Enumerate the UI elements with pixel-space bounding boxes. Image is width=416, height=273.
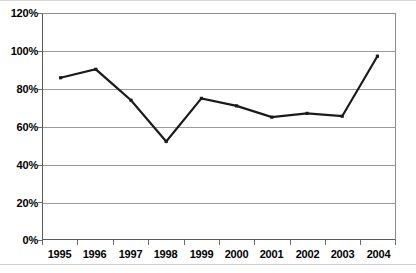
data-point-marker bbox=[94, 68, 97, 71]
data-point-marker bbox=[270, 116, 273, 119]
x-axis-tick-mark bbox=[325, 240, 326, 245]
plot-area bbox=[42, 13, 396, 240]
y-axis-tick-label: 0% bbox=[0, 235, 38, 246]
x-axis-tick-mark bbox=[254, 240, 255, 245]
x-axis-tick-mark bbox=[360, 240, 361, 245]
image-top-edge-line bbox=[0, 0, 416, 1]
y-axis-tick-label: 100% bbox=[0, 46, 38, 57]
y-axis-tick-label: 120% bbox=[0, 8, 38, 19]
x-axis-tick-mark bbox=[395, 240, 396, 245]
x-axis-tick-mark bbox=[290, 240, 291, 245]
y-axis-labels: 120% 100% 80% 60% 40% 20% 0% bbox=[0, 0, 38, 273]
data-point-marker bbox=[165, 140, 168, 143]
y-axis-tick-label: 40% bbox=[0, 160, 38, 171]
data-point-marker bbox=[341, 115, 344, 118]
y-axis-tick-label: 60% bbox=[0, 122, 38, 133]
data-point-marker bbox=[59, 76, 62, 79]
data-point-marker bbox=[129, 99, 132, 102]
x-axis-tick-mark bbox=[77, 240, 78, 245]
x-axis-tick-mark bbox=[219, 240, 220, 245]
data-series-line bbox=[43, 14, 395, 239]
data-point-marker bbox=[200, 97, 203, 100]
x-axis-labels: 1995 1996 1997 1998 1999 2000 2001 2002 … bbox=[42, 248, 396, 264]
y-axis-tick-label: 20% bbox=[0, 198, 38, 209]
data-point-marker bbox=[305, 112, 308, 115]
data-point-marker bbox=[376, 55, 379, 58]
line-chart: 120% 100% 80% 60% 40% 20% 0% bbox=[0, 0, 416, 273]
x-axis-tick-mark bbox=[42, 240, 43, 245]
x-axis-tick-mark bbox=[148, 240, 149, 245]
data-point-marker bbox=[235, 104, 238, 107]
x-axis-tick-label: 2004 bbox=[353, 248, 404, 261]
image-bottom-edge-line bbox=[0, 264, 416, 265]
x-axis-ticks bbox=[42, 240, 396, 245]
x-axis-tick-mark bbox=[113, 240, 114, 245]
x-axis-tick-mark bbox=[184, 240, 185, 245]
y-axis-tick-label: 80% bbox=[0, 84, 38, 95]
